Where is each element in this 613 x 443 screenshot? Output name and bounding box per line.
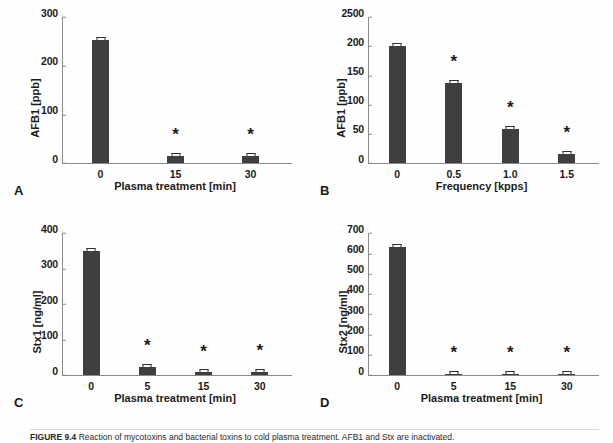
- bar-cell: *15: [176, 234, 232, 375]
- y-tick-label: 400: [41, 224, 62, 235]
- bar: [558, 154, 575, 163]
- bar-cell: 0: [63, 234, 119, 375]
- y-tick-label: 150: [347, 66, 368, 77]
- y-tick-label: 700: [347, 224, 368, 235]
- x-tick-label: 0.5: [426, 163, 483, 180]
- plot-area-a: 0100200300 0*15*30: [62, 18, 288, 164]
- figure-container: AFB1 [ppb] 0100200300 0*15*30 Plasma tre…: [0, 0, 613, 443]
- y-axis-label-a: AFB1 [ppb]: [30, 78, 41, 137]
- y-tick-label: 200: [347, 37, 368, 48]
- panel-letter-d: D: [320, 395, 329, 410]
- y-tick-label: 300: [41, 8, 62, 19]
- y-tick: 2500: [341, 13, 368, 24]
- x-axis-label-c: Plasma treatment [min]: [62, 392, 288, 404]
- bar-group-c: 0*5*15*30: [63, 234, 288, 375]
- bar-cell: *30: [539, 234, 596, 375]
- bar-cell: 0: [369, 234, 426, 375]
- significance-marker: *: [507, 99, 514, 116]
- y-tick: 400: [41, 229, 62, 240]
- significance-marker: *: [247, 126, 254, 143]
- y-tick: 100: [41, 335, 62, 346]
- y-tick: 150: [347, 71, 368, 82]
- significance-marker: *: [257, 342, 264, 359]
- x-tick-label: 30: [232, 375, 288, 392]
- bar-group-a: 0*15*30: [63, 18, 288, 163]
- y-tick-label: 100: [41, 105, 62, 116]
- y-tick-label: 0: [358, 366, 368, 377]
- x-axis-label-d: Plasma treatment [min]: [368, 392, 595, 404]
- caption-body: Reaction of mycotoxins and bacterial tox…: [79, 432, 455, 442]
- y-tick: 100: [347, 100, 368, 111]
- bar-cell: *15: [138, 18, 213, 163]
- y-tick-label: 100: [41, 330, 62, 341]
- x-tick-label: 0: [369, 375, 426, 392]
- plot-area-b: 0501001502002500 0*0.5*1.0*1.5: [368, 18, 595, 164]
- bar-cell: *0.5: [426, 18, 483, 163]
- bar-cell: *15: [482, 234, 539, 375]
- y-tick: 200: [347, 330, 368, 341]
- y-tick-label: 400: [347, 284, 368, 295]
- y-tick-label: 200: [41, 56, 62, 67]
- y-tick: 200: [41, 61, 62, 72]
- significance-marker: *: [450, 344, 457, 361]
- y-tick: 500: [347, 269, 368, 280]
- y-tick-label: 600: [347, 244, 368, 255]
- x-tick-label: 0: [63, 163, 138, 180]
- bar-group-b: 0*0.5*1.0*1.5: [369, 18, 595, 163]
- plot-area-c: 0100200300400 0*5*15*30: [62, 234, 288, 376]
- chart-panel-c: Stx1 [ng/ml] 0100200300400 0*5*15*30 Pla…: [0, 216, 306, 428]
- y-tick: 400: [347, 290, 368, 301]
- x-tick-label: 1.0: [482, 163, 539, 180]
- x-tick-label: 5: [426, 375, 483, 392]
- y-tick: 200: [347, 42, 368, 53]
- y-tick: 0: [52, 371, 62, 382]
- figure-caption: FIGURE 9.4 Reaction of mycotoxins and ba…: [30, 432, 595, 443]
- bar: [445, 83, 462, 163]
- y-tick: 100: [347, 350, 368, 361]
- x-tick-label: 15: [138, 163, 213, 180]
- y-tick: 0: [358, 159, 368, 170]
- significance-marker: *: [450, 53, 457, 70]
- plot-area-d: 0100200300400500600700 0*5*15*30: [368, 234, 595, 376]
- y-tick: 300: [41, 264, 62, 275]
- bar-cell: *5: [426, 234, 483, 375]
- x-tick-label: 0: [63, 375, 119, 392]
- y-tick: 700: [347, 229, 368, 240]
- bar: [92, 40, 109, 163]
- y-tick-label: 200: [347, 325, 368, 336]
- bar-group-d: 0*5*15*30: [369, 234, 595, 375]
- y-axis-label-b: AFB1 [ppb]: [336, 78, 347, 137]
- bar-cell: *1.0: [482, 18, 539, 163]
- chart-panel-b: AFB1 [ppb] 0501001502002500 0*0.5*1.0*1.…: [306, 0, 613, 216]
- x-tick-label: 15: [176, 375, 232, 392]
- y-tick-label: 0: [52, 154, 62, 165]
- bar: [502, 129, 519, 163]
- bar: [389, 46, 406, 163]
- significance-marker: *: [200, 343, 207, 360]
- y-tick: 300: [41, 13, 62, 24]
- y-tick: 200: [41, 300, 62, 311]
- bar: [167, 156, 184, 163]
- x-axis-label-a: Plasma treatment [min]: [62, 180, 288, 192]
- y-tick-label: 100: [347, 95, 368, 106]
- y-tick: 0: [358, 371, 368, 382]
- y-tick: 0: [52, 159, 62, 170]
- x-tick-label: 0: [369, 163, 426, 180]
- significance-marker: *: [563, 124, 570, 141]
- y-tick: 50: [353, 130, 368, 141]
- bar-cell: *30: [232, 234, 288, 375]
- x-tick-label: 30: [539, 375, 596, 392]
- x-tick-label: 1.5: [539, 163, 596, 180]
- y-tick-label: 2500: [341, 8, 368, 19]
- caption-divider: [30, 429, 599, 430]
- bar-cell: *1.5: [539, 18, 596, 163]
- bar: [389, 247, 406, 375]
- bar: [83, 251, 100, 375]
- significance-marker: *: [563, 344, 570, 361]
- bar: [242, 156, 259, 163]
- y-tick: 300: [347, 310, 368, 321]
- panel-letter-b: B: [320, 183, 329, 198]
- panel-letter-c: C: [14, 395, 23, 410]
- bar: [139, 367, 156, 375]
- x-tick-label: 5: [119, 375, 175, 392]
